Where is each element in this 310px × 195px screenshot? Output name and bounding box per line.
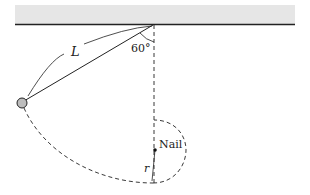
length-arc-lower <box>28 54 64 96</box>
pendulum-diagram: L 60° Nail r <box>0 0 310 195</box>
swing-path <box>24 108 153 183</box>
radius-line <box>152 150 155 181</box>
ceiling <box>15 5 295 24</box>
nail-label: Nail <box>159 138 183 151</box>
length-label: L <box>70 44 80 59</box>
nail-point <box>153 148 157 152</box>
angle-arc <box>140 33 154 42</box>
nail-loop-path <box>153 120 186 183</box>
radius-label: r <box>144 162 150 175</box>
angle-label: 60° <box>131 42 151 55</box>
pendulum-string <box>24 25 153 101</box>
pendulum-bob <box>17 98 27 108</box>
